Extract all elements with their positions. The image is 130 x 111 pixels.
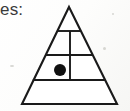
scan-speck bbox=[10, 65, 14, 67]
scan-speck bbox=[103, 47, 106, 50]
screenshot-canvas: es: bbox=[0, 0, 130, 111]
filled-dot-marker bbox=[54, 64, 66, 76]
scan-speck bbox=[112, 13, 114, 15]
pyramid-figure bbox=[0, 0, 130, 111]
